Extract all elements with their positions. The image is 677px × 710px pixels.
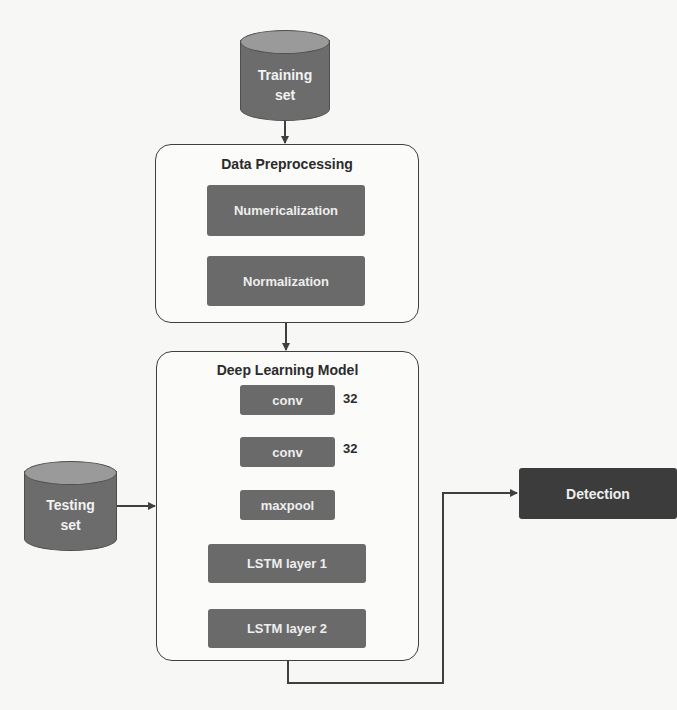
cylinder-top: [24, 461, 117, 485]
testing-set-label: Testing set: [24, 487, 117, 543]
cylinder-top: [240, 30, 330, 54]
lstm-layer-1-block: LSTM layer 1: [208, 544, 366, 583]
training-set-cylinder: Training set: [240, 30, 330, 121]
numericalization-block: Numericalization: [207, 185, 365, 236]
normalization-block: Normalization: [207, 256, 365, 306]
training-set-label: Training set: [240, 56, 330, 113]
conv-layer-1-filters: 32: [343, 391, 357, 406]
maxpool-block: maxpool: [240, 490, 335, 520]
data-preprocessing-title: Data Preprocessing: [156, 156, 418, 172]
conv-layer-2-filters: 32: [343, 441, 357, 456]
lstm-layer-2-block: LSTM layer 2: [208, 609, 366, 648]
conv-layer-2-block: conv: [240, 437, 335, 467]
detection-block: Detection: [519, 468, 677, 519]
testing-set-cylinder: Testing set: [24, 461, 117, 551]
conv-layer-1-block: conv: [240, 385, 335, 415]
deep-learning-model-title: Deep Learning Model: [157, 362, 418, 378]
